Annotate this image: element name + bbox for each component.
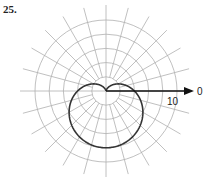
grid-spoke	[23, 69, 92, 88]
grid-spoke	[110, 8, 129, 77]
polar-axis-label: 0	[197, 86, 203, 97]
polar-axis-arrowhead-icon	[184, 87, 194, 95]
grid-spoke	[120, 95, 189, 114]
grid-spoke	[120, 69, 189, 88]
grid-spoke	[45, 30, 96, 81]
radial-tick-label: 10	[167, 96, 179, 107]
grid-spoke	[84, 105, 103, 174]
polar-graph: 0 10	[0, 0, 211, 181]
grid-spoke	[110, 105, 129, 174]
grid-spoke	[23, 95, 92, 114]
grid-spoke	[116, 30, 167, 81]
grid-spoke	[84, 8, 103, 77]
